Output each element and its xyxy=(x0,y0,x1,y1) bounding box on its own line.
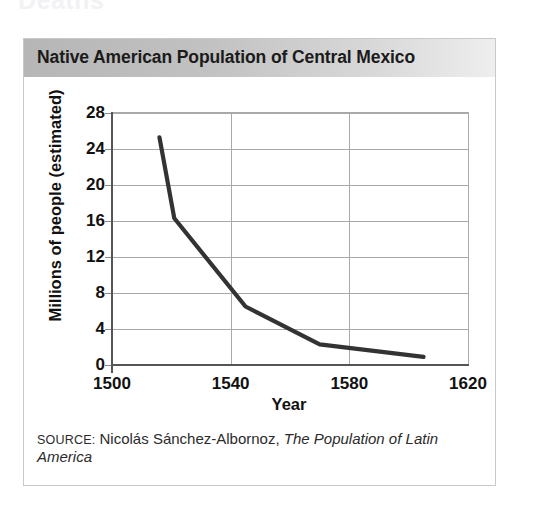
page-top-fragment: Deaths xyxy=(18,0,104,15)
x-axis-title: Year xyxy=(111,395,467,414)
population-line xyxy=(159,137,423,357)
plot-area: 0481216202428 1500154015801620 xyxy=(111,112,469,366)
y-axis-title: Millions of people (estimated) xyxy=(46,81,65,331)
y-tick-label: 0 xyxy=(96,355,105,375)
source-author: Nicolás Sánchez-Albornoz, xyxy=(100,430,280,447)
x-tick-label: 1540 xyxy=(212,374,250,394)
figure-card: Native American Population of Central Me… xyxy=(23,38,496,486)
plot-wrapper: Millions of people (estimated) 048121620… xyxy=(24,77,497,422)
figure-title: Native American Population of Central Me… xyxy=(37,47,415,68)
origin-tick-mark xyxy=(111,364,113,373)
x-tick-label: 1580 xyxy=(330,374,368,394)
x-tick-label: 1500 xyxy=(93,374,131,394)
y-tick-label: 8 xyxy=(96,283,105,303)
source-label: SOURCE: xyxy=(37,433,95,447)
y-tick-label: 20 xyxy=(86,175,105,195)
y-tick-label: 24 xyxy=(86,139,105,159)
data-line-chart xyxy=(112,113,468,365)
x-tick-label: 1620 xyxy=(449,374,487,394)
y-tick-label: 16 xyxy=(86,211,105,231)
source-note: SOURCE: Nicolás Sánchez-Albornoz, The Po… xyxy=(37,430,467,465)
y-tick-label: 4 xyxy=(96,319,105,339)
figure-title-bar: Native American Population of Central Me… xyxy=(24,39,495,77)
y-tick-label: 12 xyxy=(86,247,105,267)
y-tick-label: 28 xyxy=(86,103,105,123)
